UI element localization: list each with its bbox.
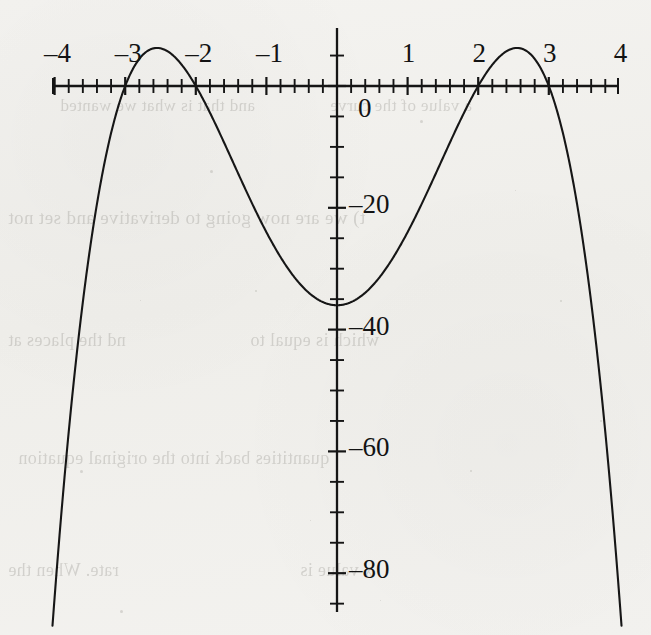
x-axis-label-2: 2 [472,40,486,67]
y-axis-label-40: –40 [349,313,390,340]
tick-marks [55,56,606,604]
y-axis-label-80: –80 [349,556,390,583]
x-axis-label-3: 3 [543,40,557,67]
paper-speck [420,120,423,123]
y-axis-label-0: 0 [358,95,372,122]
x-axis-label-4: 4 [614,40,628,67]
paper-speck [560,300,562,302]
paper-speck [80,470,83,473]
x-axis-label-neg4: –4 [44,40,71,67]
paper-speck [470,470,472,472]
paper-speck [140,300,141,301]
paper-speck [255,290,257,292]
y-axis-label-20: –20 [349,191,390,218]
paper-speck [210,170,213,173]
paper-speck [310,520,311,521]
x-axis-label-neg3: –3 [115,40,142,67]
scanned-page: and that is what we wanteda value of the… [0,0,651,635]
paper-speck [120,610,123,613]
x-axis-label-1: 1 [402,40,416,67]
paper-speck [600,420,602,422]
x-axis-label-neg2: –2 [185,40,212,67]
paper-speck [515,190,516,191]
x-axis-label-neg1: –1 [256,40,283,67]
function-graph [0,0,651,635]
y-axis-label-60: –60 [349,434,390,461]
paper-speck [380,600,381,601]
